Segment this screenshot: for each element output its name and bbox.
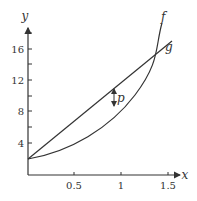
curve-f bbox=[28, 23, 162, 159]
x-axis-label: x bbox=[182, 168, 189, 182]
label-g: g bbox=[165, 40, 173, 54]
y-tick-label-8: 8 bbox=[18, 106, 24, 117]
y-tick-label-16: 16 bbox=[11, 44, 24, 55]
y-tick-label-4: 4 bbox=[18, 138, 24, 149]
x-tick-label-1.5: 1.5 bbox=[160, 180, 176, 191]
curve-g bbox=[28, 41, 172, 159]
label-p: p bbox=[117, 91, 125, 105]
x-tick-label-1: 1 bbox=[118, 180, 124, 191]
label-f: f bbox=[160, 10, 168, 24]
y-tick-label-12: 12 bbox=[11, 75, 24, 86]
chart: 16 12 8 4 0.5 1 1.5 y x f g p bbox=[0, 0, 197, 201]
y-axis-label: y bbox=[21, 9, 29, 23]
x-tick-label-0.5: 0.5 bbox=[66, 180, 82, 191]
